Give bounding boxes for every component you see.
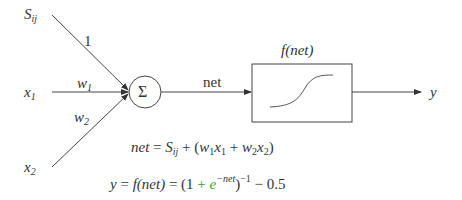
edge-x2-to-sum: [52, 94, 128, 167]
input-label-s: Sij: [24, 7, 37, 24]
output-label: y: [430, 85, 437, 100]
sigma-symbol: Σ: [138, 84, 147, 100]
weight-label-w1: w1: [77, 76, 92, 93]
diagram-canvas: [0, 0, 462, 200]
net-edge-label: net: [203, 75, 221, 90]
activation-label: f(net): [281, 43, 313, 58]
equation-output: y = f(net) = (1 + e−net)−1 − 0.5: [110, 174, 286, 192]
weight-label-w2: w2: [74, 110, 89, 127]
input-label-x2: x2: [24, 160, 36, 177]
equation-net: net = Sij + (w1x1 + w2x2): [131, 140, 274, 157]
weight-label-s: 1: [84, 34, 92, 49]
input-label-x1: x1: [24, 85, 36, 102]
